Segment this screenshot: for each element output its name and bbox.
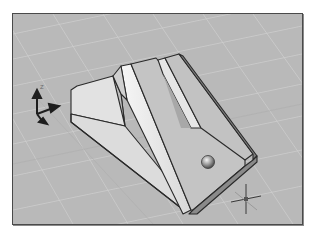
viewport-canvas[interactable] (13, 14, 302, 224)
crosshair-cursor (231, 184, 261, 214)
hole (202, 156, 215, 169)
model-solid[interactable] (71, 54, 257, 214)
ucs-z-label: Z (40, 84, 44, 90)
model-viewport[interactable]: Z (12, 13, 303, 225)
